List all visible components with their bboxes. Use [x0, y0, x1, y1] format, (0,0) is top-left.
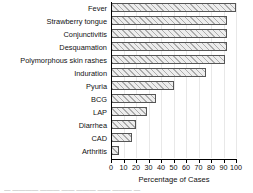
bar-conjunctivitis[interactable]: [111, 29, 227, 38]
y-axis-label-strawberry-tongue: Strawberry tongue: [0, 17, 107, 26]
bar-row: [111, 42, 236, 51]
bar-row: [111, 81, 236, 90]
bar-row: [111, 3, 236, 12]
y-axis-label-polymorphous-skin-rashes: Polymorphous skin rashes: [0, 56, 107, 65]
bar-row: [111, 120, 236, 129]
bar-fever[interactable]: [111, 3, 236, 12]
y-label-text: Fever: [88, 4, 107, 13]
y-axis-label-fever: Fever: [0, 4, 107, 13]
y-axis-label-arthritis: Arthritis: [0, 147, 107, 156]
y-label-text: Arthritis: [82, 147, 107, 156]
bar-induration[interactable]: [111, 68, 206, 77]
y-label-text: Induration: [74, 69, 107, 78]
y-label-text: Pyuria: [86, 82, 107, 91]
y-axis-label-induration: Induration: [0, 69, 107, 78]
bar-row: [111, 94, 236, 103]
bar-row: [111, 29, 236, 38]
bar-desquamation[interactable]: [111, 42, 227, 51]
y-axis-label-desquamation: Desquamation: [0, 43, 107, 52]
y-axis-line: [111, 2, 112, 159]
bar-row: [111, 55, 236, 64]
bar-cad[interactable]: [111, 133, 132, 142]
y-label-text: BCG: [91, 95, 107, 104]
bar-arthritis[interactable]: [111, 146, 119, 155]
gridline: [236, 3, 237, 158]
y-label-text: Polymorphous skin rashes: [20, 56, 107, 65]
y-axis-label-diarrhea: Diarrhea: [0, 121, 107, 130]
x-tick-label: 100: [226, 164, 246, 172]
y-axis-label-conjunctivitis: Conjunctivitis: [0, 30, 107, 39]
bar-polymorphous-skin-rashes[interactable]: [111, 55, 225, 64]
y-axis-label-cad: CAD: [0, 134, 107, 143]
figure: Fever Strawberry tongue Conjunctivitis D…: [0, 0, 253, 193]
bar-strawberry-tongue[interactable]: [111, 16, 227, 25]
y-label-text: Strawberry tongue: [47, 17, 107, 26]
y-label-text: Diarrhea: [79, 121, 107, 130]
bar-row: [111, 146, 236, 155]
y-axis-label-pyuria: Pyuria: [0, 82, 107, 91]
y-axis-label-lap: LAP: [0, 108, 107, 117]
bar-lap[interactable]: [111, 107, 147, 116]
bar-diarrhea[interactable]: [111, 120, 136, 129]
y-label-text: LAP: [93, 108, 107, 117]
bar-row: [111, 16, 236, 25]
bar-row: [111, 107, 236, 116]
y-axis-label-bcg: BCG: [0, 95, 107, 104]
bar-row: [111, 133, 236, 142]
y-label-text: Conjunctivitis: [63, 30, 107, 39]
y-label-text: Desquamation: [59, 43, 107, 52]
bar-pyuria[interactable]: [111, 81, 174, 90]
bar-row: [111, 68, 236, 77]
bar-bcg[interactable]: [111, 94, 156, 103]
x-axis-title: Percentage of Cases: [111, 175, 237, 184]
plot-area: [111, 3, 236, 158]
y-label-text: CAD: [91, 134, 107, 143]
figure-caption: — ———— ——— —— ——— —— ——— —: [4, 186, 253, 193]
